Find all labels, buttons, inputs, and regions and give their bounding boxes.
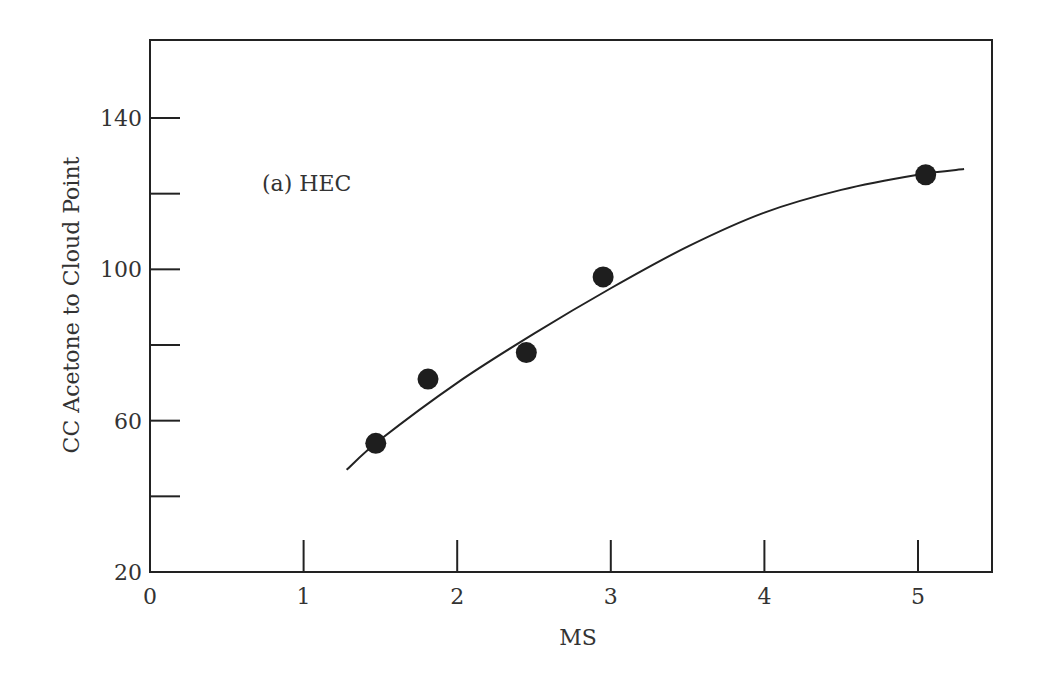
series-annotation: (a) HEC bbox=[262, 171, 351, 196]
y-tick-label: 20 bbox=[114, 560, 142, 585]
y-axis-label: CC Acetone to Cloud Point bbox=[59, 156, 84, 453]
x-tick-label: 0 bbox=[143, 584, 157, 609]
plot-frame bbox=[150, 40, 992, 572]
data-point bbox=[593, 266, 614, 287]
data-point bbox=[418, 369, 439, 390]
chart: 2060100140 012345 (a) HEC MS CC Acetone … bbox=[0, 0, 1039, 685]
x-tick-label: 5 bbox=[911, 584, 925, 609]
x-axis-ticks: 012345 bbox=[143, 540, 925, 609]
x-axis-label: MS bbox=[559, 625, 597, 650]
y-tick-label: 60 bbox=[114, 409, 142, 434]
x-tick-label: 3 bbox=[604, 584, 618, 609]
y-axis-ticks: 2060100140 bbox=[100, 106, 180, 585]
y-tick-label: 140 bbox=[100, 106, 142, 131]
x-tick-label: 1 bbox=[297, 584, 311, 609]
data-points bbox=[365, 164, 936, 454]
fit-curve bbox=[347, 169, 964, 470]
data-point bbox=[915, 164, 936, 185]
data-point bbox=[516, 342, 537, 363]
data-point bbox=[365, 433, 386, 454]
y-tick-label: 100 bbox=[100, 257, 142, 282]
x-tick-label: 2 bbox=[450, 584, 464, 609]
x-tick-label: 4 bbox=[757, 584, 771, 609]
